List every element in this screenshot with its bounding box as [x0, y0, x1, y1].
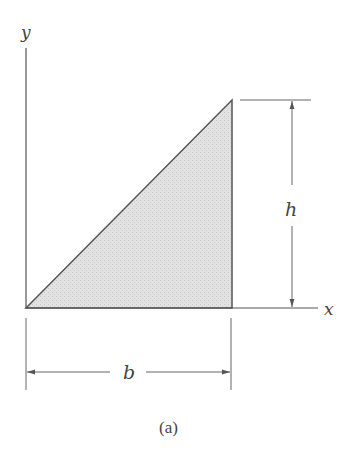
- y-axis-label: y: [20, 22, 31, 42]
- triangle-area: [26, 100, 232, 308]
- figure-caption: (a): [159, 418, 178, 437]
- height-label: h: [285, 198, 297, 220]
- x-axis-label: x: [324, 299, 334, 319]
- triangle-diagram: y x h b (a): [0, 0, 357, 464]
- base-label: b: [123, 361, 135, 383]
